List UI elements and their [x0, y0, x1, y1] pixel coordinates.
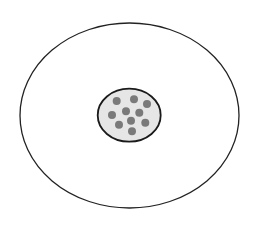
dot	[115, 121, 123, 129]
dot	[128, 127, 136, 135]
dot	[127, 117, 135, 125]
dot	[143, 100, 151, 108]
cell-diagram	[0, 0, 259, 230]
dot	[108, 111, 116, 119]
dot	[113, 97, 121, 105]
dot	[122, 107, 130, 115]
dot	[130, 95, 138, 103]
dot	[135, 109, 143, 117]
dot	[141, 119, 149, 127]
